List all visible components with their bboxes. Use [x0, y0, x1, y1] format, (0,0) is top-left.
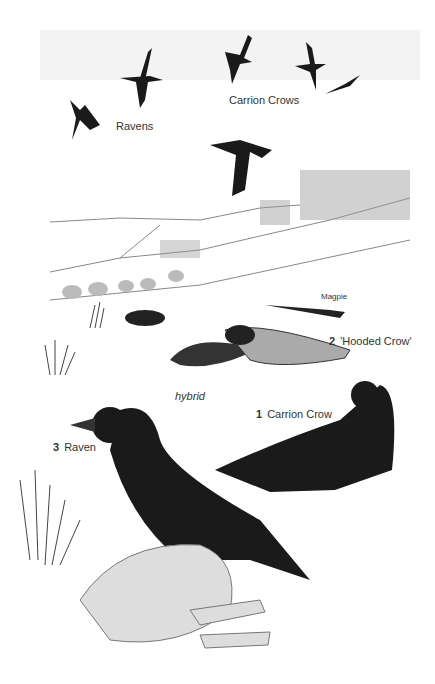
- raven-text: Raven: [64, 441, 96, 453]
- number-1: 1: [256, 408, 262, 420]
- carrion-crow-text: Carrion Crow: [267, 408, 332, 420]
- sheep: [62, 270, 184, 299]
- label-raven: 3Raven: [53, 441, 96, 453]
- illustration-plate: Ravens Carrion Crows Magpie 2'Hooded Cro…: [0, 0, 435, 684]
- hooded-crow-text: 'Hooded Crow': [340, 335, 411, 347]
- label-hooded-crow: 2'Hooded Crow': [329, 335, 412, 347]
- label-ravens: Ravens: [116, 120, 153, 132]
- label-hybrid: hybrid: [175, 390, 205, 402]
- label-carrion-crow: 1Carrion Crow: [256, 408, 332, 420]
- trees: [160, 170, 410, 258]
- label-magpie: Magpie: [321, 292, 347, 301]
- number-3: 3: [53, 441, 59, 453]
- label-carrion-crows: Carrion Crows: [229, 94, 299, 106]
- number-2: 2: [329, 335, 335, 347]
- lamb: [80, 545, 270, 648]
- grass: [20, 302, 104, 565]
